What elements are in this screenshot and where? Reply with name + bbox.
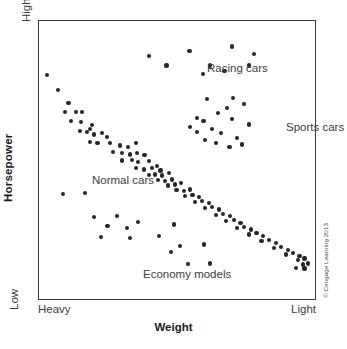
data-point [182, 189, 186, 193]
data-point [261, 234, 265, 238]
data-point [227, 145, 231, 149]
data-point [186, 262, 190, 266]
data-point [174, 188, 178, 192]
data-point [61, 192, 65, 196]
data-point [92, 132, 96, 136]
data-point [252, 52, 256, 56]
data-point [195, 130, 199, 134]
data-point [56, 88, 60, 92]
data-point [105, 135, 109, 139]
y-axis-title: Horsepower [2, 134, 14, 202]
data-point [100, 131, 104, 135]
data-point [170, 177, 174, 181]
data-point [249, 227, 253, 231]
data-point [232, 218, 236, 222]
data-point [156, 178, 160, 182]
data-point [302, 266, 306, 270]
data-point [115, 214, 119, 218]
data-point [272, 246, 276, 250]
data-point [193, 200, 197, 204]
data-point [142, 167, 146, 171]
data-point [120, 151, 124, 155]
data-point [267, 238, 271, 242]
data-point [147, 54, 151, 58]
y-axis-low-label: Low [8, 289, 20, 310]
annotation-sports-cars: Sports cars [286, 121, 344, 133]
x-axis-title: Weight [0, 321, 347, 333]
data-point [134, 141, 138, 145]
data-point [217, 207, 221, 211]
copyright-credit: © Cengage Learning 2013 [322, 223, 329, 298]
data-point [225, 106, 229, 110]
data-point [160, 173, 164, 177]
data-point [66, 101, 70, 105]
data-point [83, 191, 87, 195]
data-point [201, 119, 205, 123]
data-point [125, 226, 129, 230]
data-point [80, 110, 84, 114]
x-axis-heavy-label: Heavy [38, 303, 71, 315]
data-point [150, 166, 154, 170]
data-point [169, 250, 173, 254]
data-point [128, 152, 132, 156]
data-point [214, 213, 218, 217]
data-point [79, 120, 83, 124]
data-point [274, 241, 278, 245]
data-point [203, 206, 207, 210]
data-point [235, 226, 239, 230]
data-point [208, 261, 212, 265]
data-point [210, 205, 214, 209]
data-point [210, 127, 214, 131]
plot-area: Racing cars Sports cars Normal cars Econ… [38, 20, 316, 300]
data-point [128, 236, 132, 240]
data-point [224, 219, 228, 223]
data-point [238, 221, 242, 225]
data-point [78, 129, 82, 133]
data-point [167, 171, 171, 175]
data-point [172, 222, 176, 226]
data-point [214, 141, 218, 145]
data-point [291, 251, 295, 255]
data-point [187, 49, 191, 53]
data-point [130, 158, 134, 162]
data-point [219, 131, 223, 135]
annotation-normal-cars: Normal cars [92, 174, 154, 186]
data-point [216, 111, 220, 115]
data-point [188, 125, 192, 129]
data-point [173, 182, 177, 186]
data-point [105, 224, 109, 228]
annotation-economy-models: Economy models [143, 268, 231, 280]
data-point [88, 140, 92, 144]
data-point [95, 141, 99, 145]
data-point [203, 138, 207, 142]
data-point [200, 199, 204, 203]
data-point [126, 145, 130, 149]
data-point [279, 245, 283, 249]
data-point [134, 166, 138, 170]
data-point [99, 235, 103, 239]
data-point [230, 117, 234, 121]
scatter-plot-figure: Horsepower High Low Racing cars Sports c… [0, 0, 347, 349]
data-point [179, 181, 183, 185]
data-point [302, 256, 306, 260]
data-point [205, 97, 209, 101]
data-point [235, 136, 239, 140]
data-point [259, 239, 263, 243]
data-point [92, 215, 96, 219]
data-point [183, 194, 187, 198]
data-point [247, 122, 251, 126]
data-point [136, 160, 140, 164]
data-point [306, 261, 310, 265]
data-point [108, 141, 112, 145]
x-axis-light-label: Light [291, 303, 316, 315]
y-axis-high-label: High [20, 0, 32, 22]
data-point [254, 231, 258, 235]
data-point [242, 102, 246, 106]
data-point [164, 63, 168, 67]
data-point [147, 159, 151, 163]
data-point [294, 266, 298, 270]
data-point [230, 44, 234, 48]
data-point [63, 110, 67, 114]
data-point [240, 142, 244, 146]
data-point [284, 252, 288, 256]
